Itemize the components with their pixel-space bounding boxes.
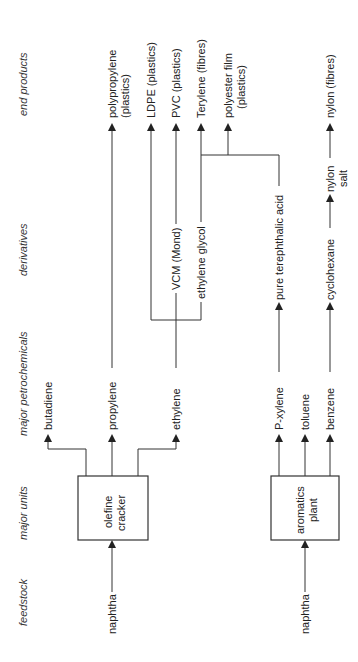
end-terylene: Terylene (fibres) <box>195 39 207 118</box>
petro-toluene: toluene <box>299 394 311 430</box>
aromatics-label-2: plant <box>307 498 319 522</box>
end-ldpe: LDPE (plastics) <box>145 42 157 118</box>
petro-benzene: benzene <box>324 388 336 430</box>
cracker-label-2: cracker <box>115 495 127 531</box>
deriv-pta: pure terephthalic acid <box>273 195 285 300</box>
stage-feedstock: feedstock <box>17 578 29 626</box>
petro-butadiene: butadiene <box>42 382 54 430</box>
end-polyester-film-1: polyester film <box>222 53 234 118</box>
deriv-ethylene-glycol: ethylene glycol <box>195 226 207 299</box>
stage-major-units: major units <box>17 486 29 540</box>
arrow-to-butadiene <box>48 438 86 476</box>
stage-derivatives: derivatives <box>17 223 29 276</box>
deriv-nylon-salt-2: salt <box>337 170 349 187</box>
petrochemical-flow-diagram: end products derivatives major petrochem… <box>0 0 358 662</box>
deriv-nylon-salt-1: nylon <box>324 166 336 192</box>
olefine-chain: naphtha olefine cracker butadiene propyl… <box>42 127 279 634</box>
end-polypropylene-1: polypropylene <box>106 50 118 119</box>
end-products: polypropylene (plastics) LDPE (plastics)… <box>106 39 336 118</box>
cracker-label-1: olefine <box>102 496 114 528</box>
stage-major-petrochemicals: major petrochemicals <box>17 331 29 436</box>
end-nylon: nylon (fibres) <box>324 54 336 118</box>
feed-naphtha-1: naphtha <box>106 593 118 634</box>
aromatics-label-1: aromatics <box>294 486 306 534</box>
petro-pxylene: P-xylene <box>273 387 285 430</box>
deriv-vcm: VCM (Mond) <box>170 228 182 290</box>
arrow-to-ethylene <box>138 438 176 476</box>
aromatics-chain: naphtha aromatics plant P-xylene toluene… <box>271 127 349 634</box>
petro-propylene: propylene <box>106 382 118 430</box>
petro-ethylene: ethylene <box>170 388 182 430</box>
feed-naphtha-2: naphtha <box>299 593 311 634</box>
stage-end-products: end products <box>17 52 29 116</box>
stage-headers: end products derivatives major petrochem… <box>17 52 29 626</box>
end-polyester-film-2: (plastics) <box>235 65 247 109</box>
end-polypropylene-2: (plastics) <box>119 74 131 118</box>
end-pvc: PVC (plastics) <box>170 48 182 118</box>
deriv-cyclohexane: cyclohexane <box>324 239 336 300</box>
